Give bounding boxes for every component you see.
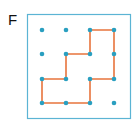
grid-dots bbox=[40, 28, 117, 106]
grid-dot bbox=[112, 77, 117, 82]
grid-dot bbox=[88, 77, 93, 82]
grid-dot bbox=[88, 101, 93, 106]
grid-dot bbox=[40, 52, 45, 57]
grid-dot bbox=[64, 101, 69, 106]
polyomino-outline bbox=[42, 30, 114, 103]
grid-dot bbox=[64, 52, 69, 57]
grid-dot bbox=[40, 28, 45, 33]
grid-dot bbox=[88, 52, 93, 57]
grid-dot bbox=[88, 28, 93, 33]
grid-dot bbox=[40, 77, 45, 82]
grid-dot bbox=[112, 101, 117, 106]
grid-dot bbox=[112, 28, 117, 33]
grid-dot bbox=[112, 52, 117, 57]
dot-grid-diagram bbox=[0, 0, 134, 124]
grid-dot bbox=[64, 28, 69, 33]
grid-dot bbox=[40, 101, 45, 106]
outline-path bbox=[42, 30, 114, 103]
grid-dot bbox=[64, 77, 69, 82]
